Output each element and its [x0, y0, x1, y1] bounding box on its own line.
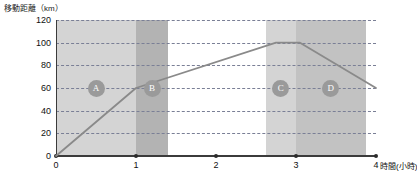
y-tick-label-120: 120	[36, 15, 51, 25]
y-tick-label-40: 40	[41, 106, 51, 116]
y-tick-label-100: 100	[36, 38, 51, 48]
x-tick-label-4: 4	[373, 160, 378, 170]
segment-badge-c: C	[272, 80, 289, 97]
segment-badge-a: A	[88, 80, 105, 97]
y-tick-label-80: 80	[41, 60, 51, 70]
y-tick-label-20: 20	[41, 128, 51, 138]
x-tick-label-3: 3	[293, 160, 298, 170]
y-tick-label-60: 60	[41, 83, 51, 93]
series-polyline-0	[56, 43, 376, 156]
x-axis-title: 時間(小時)	[380, 160, 417, 171]
segment-badge-d: D	[322, 80, 339, 97]
plot-area: 020406080100120 01234 ABCD 時間(小時)	[56, 20, 376, 156]
x-tick-label-0: 0	[53, 160, 58, 170]
x-tick-label-1: 1	[133, 160, 138, 170]
segment-badge-b: B	[144, 80, 161, 97]
y-axis-title: 移動距離（km）	[4, 2, 63, 13]
x-tick-label-2: 2	[213, 160, 218, 170]
y-tick-label-0: 0	[46, 151, 51, 161]
